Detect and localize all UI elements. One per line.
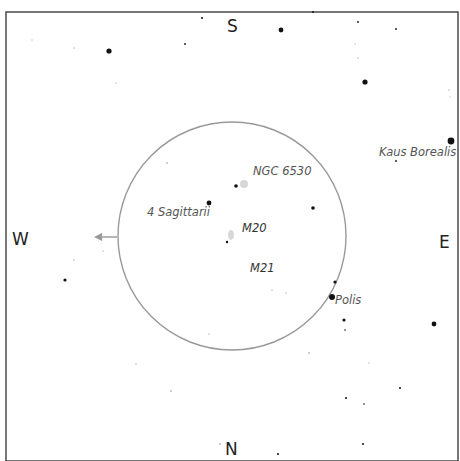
star-icon xyxy=(73,259,74,260)
label-m20: M20 xyxy=(242,221,267,235)
cardinal-south: S xyxy=(227,16,238,36)
star-icon xyxy=(277,453,279,455)
star-icon xyxy=(342,318,345,321)
nebula-icon xyxy=(240,180,248,188)
star-icon xyxy=(362,79,367,84)
label-ngc-6530: NGC 6530 xyxy=(253,164,311,178)
cardinal-east: E xyxy=(439,232,450,252)
label-polis: Polis xyxy=(335,293,361,307)
star-icon xyxy=(311,206,315,210)
star-icon xyxy=(448,138,455,145)
star-icon xyxy=(285,292,286,293)
star-icon xyxy=(357,21,359,23)
star-icon xyxy=(63,278,66,281)
star-icon xyxy=(170,390,171,391)
star-icon xyxy=(333,280,336,283)
star-icon xyxy=(399,387,401,389)
cardinal-north: N xyxy=(225,439,238,459)
star-icon xyxy=(279,28,284,33)
star-icon xyxy=(363,403,365,405)
star-icon xyxy=(219,443,220,444)
star-icon xyxy=(395,28,397,30)
star-icon xyxy=(102,250,103,251)
label-kaus-borealis: Kaus Borealis xyxy=(379,145,456,159)
star-icon xyxy=(106,48,111,53)
star-icon xyxy=(234,184,238,188)
star-icon xyxy=(432,322,437,327)
star-icon xyxy=(312,11,314,13)
star-icon xyxy=(226,241,228,243)
star-icon xyxy=(355,44,356,45)
star-icon xyxy=(116,83,117,84)
star-icon xyxy=(308,352,309,353)
direction-arrow-icon xyxy=(94,233,117,241)
star-icon xyxy=(369,363,370,364)
star-icon xyxy=(271,289,272,290)
star-icon xyxy=(166,162,167,163)
star-icon xyxy=(73,47,74,48)
star-icon xyxy=(448,89,449,90)
cardinal-west: W xyxy=(12,229,29,249)
label-4-sagittarii: 4 Sagittarii xyxy=(147,205,210,219)
nebula-icon xyxy=(228,230,234,240)
star-icon xyxy=(357,57,358,58)
star-chart xyxy=(0,0,460,461)
star-icon xyxy=(345,397,347,399)
star-icon xyxy=(201,17,203,19)
star-icon xyxy=(344,329,346,331)
star-icon xyxy=(208,333,209,334)
star-icon xyxy=(135,363,136,364)
star-icon xyxy=(395,160,397,162)
star-icon xyxy=(362,443,364,445)
star-icon xyxy=(32,40,33,41)
label-m21: M21 xyxy=(250,261,275,275)
star-icon xyxy=(184,43,186,45)
star-icon xyxy=(450,97,451,98)
